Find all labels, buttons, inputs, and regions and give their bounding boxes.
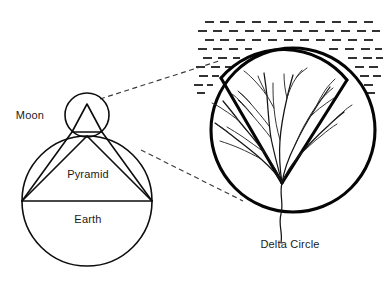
delta-outer-circle xyxy=(211,48,375,212)
diagram-canvas: Moon Pyramid Earth xyxy=(0,0,388,285)
distributary-channel xyxy=(282,112,344,183)
pyramid-label: Pyramid xyxy=(67,168,109,180)
delta-circle-label: Delta Circle xyxy=(260,238,319,250)
delta-wedge-right-arm xyxy=(282,80,347,183)
distributary-branch xyxy=(296,68,307,78)
moon-label: Moon xyxy=(16,109,44,121)
delta-distributaries xyxy=(212,68,352,183)
pyramid-flank-left xyxy=(22,132,72,201)
main-river-channel xyxy=(280,183,282,243)
distributary-branch xyxy=(273,83,280,140)
distributary-branch xyxy=(238,100,271,138)
distributary-branch xyxy=(220,141,261,159)
earth-moon-pyramid-group: Moon Pyramid Earth xyxy=(16,93,152,266)
lower-magnifier-connector xyxy=(141,150,243,201)
distributary-branch xyxy=(239,92,269,126)
moon-inner-triangle xyxy=(72,104,102,132)
distributary-branch xyxy=(244,71,267,96)
distributary-branch xyxy=(216,124,230,134)
moon-circle xyxy=(65,93,109,137)
diagram-svg: Moon Pyramid Earth xyxy=(0,0,388,285)
earth-label: Earth xyxy=(74,213,101,225)
delta-circle-group: Delta Circle xyxy=(211,48,375,250)
distributary-branch xyxy=(284,74,287,98)
pyramid-flank-right xyxy=(102,132,152,201)
